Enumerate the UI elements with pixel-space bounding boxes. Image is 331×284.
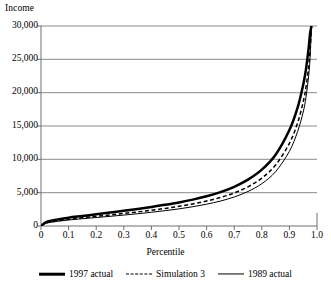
x-axis-title: Percentile (0, 247, 331, 257)
y-tick-label: 15,000 (2, 121, 38, 131)
legend-item-1989-actual: 1989 actual (218, 269, 292, 279)
y-tick-label: 25,000 (2, 54, 38, 64)
y-tick-label: 30,000 (2, 21, 38, 31)
x-tick-label: 0.2 (84, 231, 108, 241)
chart-legend: 1997 actual Simulation 3 1989 actual (0, 266, 331, 282)
x-tick-label: 0.7 (222, 231, 246, 241)
y-tick-label: 10,000 (2, 154, 38, 164)
y-tick-label: 20,000 (2, 87, 38, 97)
y-tick-label: 5,000 (2, 188, 38, 198)
y-axis-tick-labels: 30,000 25,000 20,000 15,000 10,000 5,000… (0, 0, 38, 284)
x-tick-label: 0.6 (195, 231, 219, 241)
x-tick-label: 0 (29, 231, 53, 241)
legend-item-simulation-3: Simulation 3 (126, 269, 205, 279)
legend-line-dashed-icon (126, 270, 152, 279)
legend-label: 1989 actual (248, 269, 292, 279)
plot-area (0, 0, 331, 284)
x-tick-label: 0.3 (112, 231, 136, 241)
y-tick-label: 0 (2, 221, 38, 231)
legend-label: 1997 actual (69, 269, 113, 279)
legend-line-thin-solid-icon (218, 270, 244, 279)
chart-figure: Income 30,000 25,000 20,000 15,000 10,00… (0, 0, 331, 284)
x-tick-label: 0.1 (57, 231, 81, 241)
x-tick-label: 0.4 (139, 231, 163, 241)
gridlines (41, 26, 317, 193)
legend-item-1997-actual: 1997 actual (39, 269, 113, 279)
x-tick-label: 0.8 (250, 231, 274, 241)
x-tick-label: 1.0 (305, 231, 329, 241)
x-tick-label: 0.5 (167, 231, 191, 241)
legend-label: Simulation 3 (156, 269, 205, 279)
x-tick-label: 0.9 (277, 231, 301, 241)
legend-line-thick-solid-icon (39, 270, 65, 279)
